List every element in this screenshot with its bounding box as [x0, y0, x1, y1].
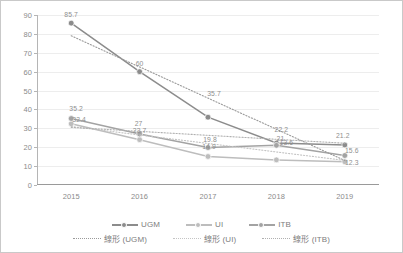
data-value-label: 23.7 — [133, 127, 147, 134]
legend-label: UI — [215, 220, 223, 229]
data-point-marker — [205, 154, 211, 160]
legend-row-series: UGMUIITB — [1, 220, 402, 229]
x-tick-label: 2015 — [63, 192, 80, 201]
data-value-label: 22.2 — [275, 126, 289, 133]
x-tick-label: 2016 — [131, 192, 148, 201]
legend-marker-line-icon — [249, 220, 275, 229]
data-value-label: 14.9 — [202, 142, 216, 149]
legend-item[interactable]: 線形 (ITB) — [262, 233, 330, 244]
data-value-label: 19.8 — [203, 135, 217, 142]
legend-label: 線形 (ITB) — [293, 233, 330, 244]
legend-item[interactable]: 線形 (UGM) — [73, 233, 147, 244]
y-tick-label: 10 — [23, 162, 32, 171]
series-lines — [37, 15, 379, 185]
series-line — [71, 23, 345, 145]
legend-label: ITB — [278, 220, 291, 229]
legend-marker-line-icon — [186, 220, 212, 229]
legend-item[interactable]: UI — [186, 220, 223, 229]
y-tick-label: 60 — [23, 67, 32, 76]
data-point-marker — [137, 69, 143, 75]
y-tick-label: 80 — [23, 29, 32, 38]
legend-label: 線形 (UI) — [204, 233, 236, 244]
data-value-label: 35.7 — [207, 90, 221, 97]
legend-label: UGM — [141, 220, 160, 229]
plot-inner: 0102030405060708090 20152016201720182019… — [37, 15, 379, 185]
legend-marker-dotted-icon — [73, 238, 101, 239]
data-value-label: 13.6 — [280, 139, 294, 146]
legend-marker-line-icon — [112, 220, 138, 229]
data-point-marker — [205, 114, 211, 120]
legend-marker-dotted-icon — [262, 238, 290, 239]
x-tick-label: 2018 — [268, 192, 285, 201]
data-value-label: 85.7 — [64, 11, 78, 18]
legend-label: 線形 (UGM) — [104, 233, 147, 244]
data-point-marker — [68, 20, 74, 26]
y-tick-label: 30 — [23, 124, 32, 133]
legend-marker-dotted-icon — [173, 238, 201, 239]
data-point-marker — [274, 142, 280, 148]
y-tick-label: 40 — [23, 105, 32, 114]
legend-item[interactable]: UGM — [112, 220, 160, 229]
data-value-label: 35.2 — [69, 104, 83, 111]
data-point-marker — [274, 157, 280, 163]
chart-legend: UGMUIITB 線形 (UGM)線形 (UI)線形 (ITB) — [1, 216, 402, 244]
legend-item[interactable]: 線形 (UI) — [173, 233, 236, 244]
y-tick-label: 0 — [28, 181, 32, 190]
y-tick-label: 20 — [23, 143, 32, 152]
data-value-label: 32.4 — [72, 115, 86, 122]
legend-row-trendlines: 線形 (UGM)線形 (UI)線形 (ITB) — [1, 233, 402, 244]
data-value-label: 12.3 — [345, 158, 359, 165]
data-point-marker — [137, 137, 143, 143]
data-value-label: 21.2 — [336, 131, 350, 138]
y-tick-label: 90 — [23, 11, 32, 20]
data-value-label: 60 — [136, 59, 144, 66]
y-tick-mark — [34, 185, 37, 186]
y-tick-label: 70 — [23, 48, 32, 57]
chart-figure: 0102030405060708090 20152016201720182019… — [0, 0, 403, 253]
x-tick-label: 2019 — [336, 192, 353, 201]
plot-area: 0102030405060708090 20152016201720182019… — [37, 15, 379, 185]
legend-item[interactable]: ITB — [249, 220, 291, 229]
x-tick-label: 2017 — [199, 192, 216, 201]
data-value-label: 15.6 — [345, 146, 359, 153]
data-value-label: 27 — [135, 120, 143, 127]
y-tick-label: 50 — [23, 86, 32, 95]
